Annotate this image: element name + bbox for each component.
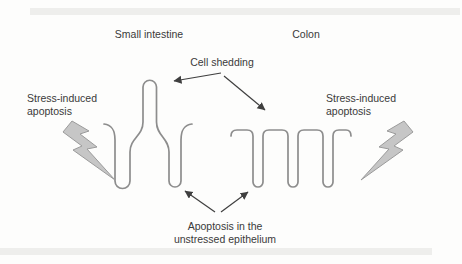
small-intestine-label: Small intestine [99, 28, 199, 41]
cell-shedding-arrow-left [174, 73, 221, 81]
figure-canvas: Small intestine Colon Cell shedding Stre… [0, 0, 462, 264]
label-line: Stress-induced [326, 92, 396, 105]
colon-label: Colon [266, 28, 346, 41]
lightning-bolt-left-icon [63, 121, 115, 180]
label-line: unstressed epithelium [125, 233, 325, 246]
label-line: apoptosis [27, 105, 97, 118]
label-line: Apoptosis in the [125, 220, 325, 233]
colon-epithelium-outline [231, 130, 351, 187]
small-intestine-epithelium-outline [104, 80, 192, 188]
label-line: Stress-induced [27, 92, 97, 105]
unstressed-apoptosis-label: Apoptosis in the unstressed epithelium [125, 220, 325, 245]
unstressed-apoptosis-arrow-left [185, 191, 215, 212]
cell-shedding-arrow-right [224, 76, 265, 110]
unstressed-apoptosis-arrow-right [221, 192, 248, 212]
stress-induced-apoptosis-label-left: Stress-induced apoptosis [27, 92, 97, 117]
label-line: apoptosis [326, 105, 396, 118]
lightning-bolt-right-icon [361, 121, 413, 180]
cell-shedding-label: Cell shedding [172, 56, 272, 69]
stress-induced-apoptosis-label-right: Stress-induced apoptosis [326, 92, 396, 117]
